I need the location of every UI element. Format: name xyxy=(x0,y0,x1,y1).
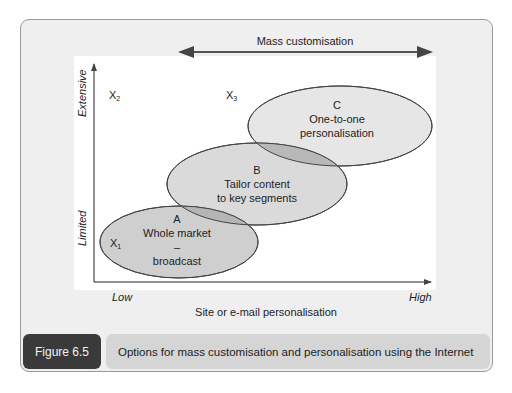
marker-x2: X2 xyxy=(109,89,120,102)
x-axis-low-label: Low xyxy=(112,291,132,303)
marker-x3: X3 xyxy=(226,89,237,102)
y-axis-limited-label: Limited xyxy=(76,211,88,246)
figure-number-badge: Figure 6.5 xyxy=(23,334,101,369)
x-axis-title: Site or e-mail personalisation xyxy=(195,306,337,318)
y-axis-extensive-label: Extensive xyxy=(76,69,88,117)
mass-customisation-label: Mass customisation xyxy=(257,35,354,47)
x-axis-high-label: High xyxy=(409,291,432,303)
ellipse-c-label: C One-to-one personalisation xyxy=(300,98,374,140)
ellipse-b-label: B Tailor content to key segments xyxy=(217,163,297,205)
figure-caption: Options for mass customisation and perso… xyxy=(106,334,490,369)
ellipse-a-label: A Whole market – broadcast xyxy=(143,212,211,268)
marker-x1: X1 xyxy=(110,237,121,250)
